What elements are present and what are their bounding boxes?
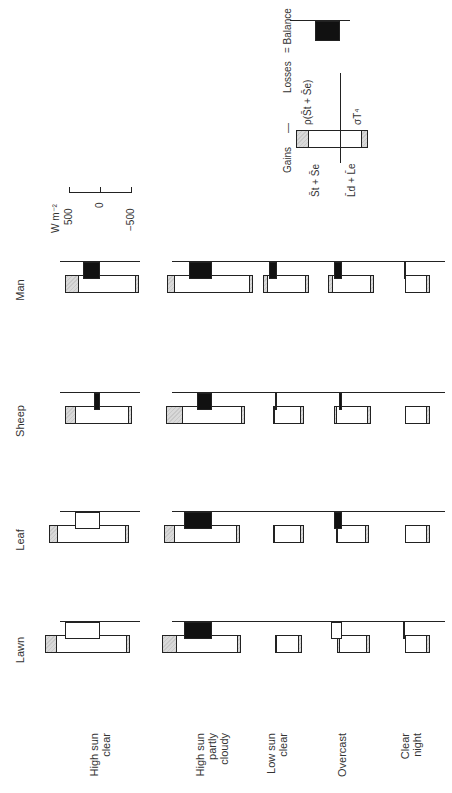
legend-zero-line bbox=[340, 73, 341, 163]
emitted-segment bbox=[236, 525, 240, 543]
legend-balance-label: = Balance bbox=[282, 8, 293, 53]
scale-tick-mid bbox=[100, 187, 101, 193]
balance-bar bbox=[94, 393, 100, 410]
zero-axis bbox=[60, 511, 140, 512]
reflected-segment bbox=[45, 635, 57, 653]
legend-emitted-loss: σT⁴ bbox=[352, 108, 363, 125]
species-header-lawn: Lawn bbox=[14, 637, 26, 663]
emitted-segment bbox=[426, 525, 430, 543]
emitted-segment bbox=[305, 275, 309, 293]
scale-unit: W m⁻² bbox=[50, 204, 61, 233]
reflected-segment bbox=[167, 275, 174, 293]
emitted-segment bbox=[370, 275, 374, 293]
balance-bar bbox=[184, 512, 212, 529]
emitted-segment bbox=[237, 635, 241, 653]
emitted-segment bbox=[366, 635, 370, 653]
balance-bar bbox=[331, 622, 342, 639]
balance-bar bbox=[275, 393, 277, 410]
energy-balance-figure: High sunclearHigh sunpartlycloudyLow sun… bbox=[0, 0, 452, 793]
emitted-segment bbox=[365, 525, 369, 543]
condition-label: Overcast bbox=[336, 733, 348, 783]
balance-bar bbox=[404, 262, 406, 279]
balance-bar bbox=[65, 622, 100, 639]
emitted-segment bbox=[241, 406, 245, 424]
balance-bar bbox=[334, 262, 342, 279]
scale-label-top: 500 bbox=[63, 208, 74, 225]
zero-axis bbox=[60, 392, 140, 393]
legend-emitted-segment bbox=[361, 130, 368, 148]
reflected-segment bbox=[273, 525, 275, 543]
emitted-segment bbox=[300, 406, 304, 424]
balance-bar bbox=[75, 512, 100, 529]
zero-axis bbox=[365, 392, 445, 393]
emitted-segment bbox=[298, 635, 302, 653]
condition-label: Clear night bbox=[399, 733, 423, 783]
balance-bar bbox=[334, 512, 342, 529]
balance-bar bbox=[339, 393, 342, 410]
emitted-segment bbox=[300, 525, 304, 543]
scale-label-mid: 0 bbox=[94, 202, 105, 208]
species-header-sheep: Sheep bbox=[14, 405, 26, 437]
emitted-segment bbox=[426, 275, 430, 293]
reflected-segment bbox=[65, 275, 79, 293]
balance-bar bbox=[403, 622, 405, 639]
legend-balance-bar bbox=[315, 21, 340, 41]
balance-bar bbox=[189, 262, 212, 279]
species-header-leaf: Leaf bbox=[14, 529, 26, 550]
emitted-segment bbox=[249, 275, 253, 293]
emitted-segment bbox=[135, 275, 139, 293]
zero-axis bbox=[60, 261, 140, 262]
condition-label: Low sunclear bbox=[265, 733, 289, 783]
legend-reflected-loss: ρ(S̄t + S̄e) bbox=[302, 80, 313, 125]
legend-shortwave-gain: S̄t + S̄e bbox=[310, 164, 321, 197]
reflected-segment bbox=[263, 275, 268, 293]
scale-label-bottom: −500 bbox=[125, 208, 136, 231]
legend-longwave-gain: L̄d + L̄e bbox=[346, 163, 357, 197]
reflected-segment bbox=[164, 525, 175, 543]
condition-label: High sunclear bbox=[88, 733, 112, 783]
emitted-segment bbox=[128, 406, 132, 424]
reflected-segment bbox=[166, 406, 183, 424]
reflected-segment bbox=[65, 406, 76, 424]
reflected-segment bbox=[275, 635, 277, 653]
legend-reflected-segment bbox=[296, 130, 309, 148]
emitted-segment bbox=[126, 635, 130, 653]
legend-gains-label: Gains bbox=[282, 147, 293, 173]
reflected-segment bbox=[334, 406, 337, 424]
reflected-segment bbox=[162, 635, 176, 653]
emitted-segment bbox=[426, 406, 430, 424]
balance-bar bbox=[269, 262, 277, 279]
balance-bar bbox=[184, 622, 212, 639]
balance-bar bbox=[197, 393, 213, 410]
legend-minus: — bbox=[282, 123, 293, 133]
species-header-man: Man bbox=[14, 279, 26, 300]
condition-label: High sunpartlycloudy bbox=[194, 733, 230, 783]
legend-losses-label: Losses bbox=[282, 61, 293, 93]
reflected-segment bbox=[328, 275, 333, 293]
emitted-segment bbox=[367, 406, 371, 424]
scale-tick-bottom bbox=[131, 187, 132, 193]
balance-bar bbox=[83, 262, 100, 279]
reflected-segment bbox=[49, 525, 59, 543]
zero-axis bbox=[365, 511, 445, 512]
emitted-segment bbox=[426, 635, 430, 653]
scale-tick-top bbox=[69, 187, 70, 193]
emitted-segment bbox=[125, 525, 129, 543]
